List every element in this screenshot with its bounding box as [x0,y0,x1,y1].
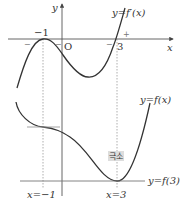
label-minus-1: −1 [34,27,49,38]
y-axis-label: y [51,2,58,13]
f-curve [16,102,150,181]
origin-label: O [64,41,72,52]
sign-minus-left: − [24,40,31,49]
x-minus-1-label: x=−1 [27,189,56,200]
diagram-canvas: y x O −1 3 y=f′(x) − − − + y=f(x) 극소 y=f… [0,0,190,207]
f-label: y=f(x) [139,94,171,105]
label-3: 3 [117,41,123,52]
x-3-label: x=3 [106,189,126,200]
sign-minus-mid: − [55,40,62,49]
min-label: 극소 [109,152,123,161]
x-axis-label: x [167,42,173,53]
sign-minus-right: − [106,40,113,49]
f-prime-label: y=f′(x) [111,7,146,18]
sign-plus: + [123,30,130,39]
y-f3-label: y=f(3) [147,175,180,186]
